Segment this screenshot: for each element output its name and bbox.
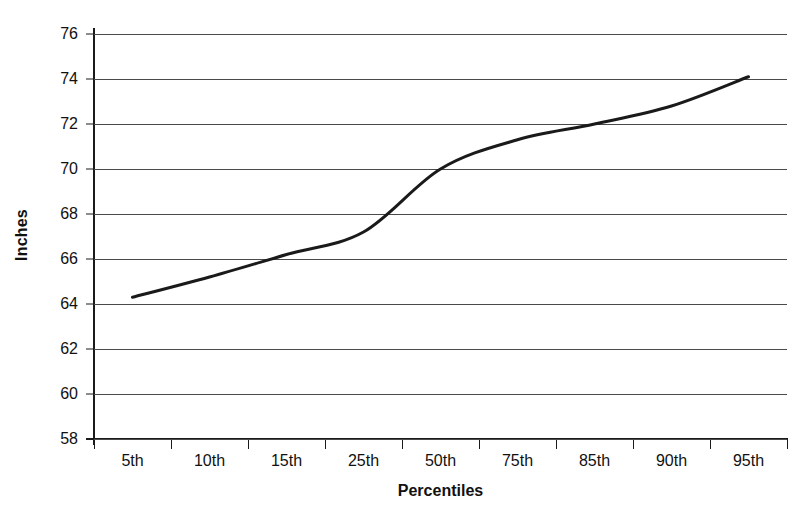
x-axis-tick-label: 75th <box>502 452 533 470</box>
y-axis-tick-mark <box>86 169 94 170</box>
x-axis-title: Percentiles <box>94 482 787 500</box>
x-axis-tick-mark <box>633 440 634 449</box>
x-axis-tick-mark <box>94 440 95 449</box>
x-axis-tick-mark <box>787 440 788 449</box>
x-axis-tick-mark <box>171 440 172 449</box>
y-axis-tick-label: 74 <box>60 70 78 88</box>
x-axis-tick-label: 5th <box>121 452 143 470</box>
y-axis-tick-mark <box>86 79 94 80</box>
gridline <box>94 439 787 440</box>
y-axis-tick-label: 58 <box>60 430 78 448</box>
y-axis-tick-mark <box>86 124 94 125</box>
x-axis-tick-label: 85th <box>579 452 610 470</box>
y-axis-tick-label: 72 <box>60 115 78 133</box>
y-axis-tick-label: 68 <box>60 205 78 223</box>
y-axis-tick-mark <box>86 304 94 305</box>
plot-area <box>94 34 787 439</box>
x-axis-tick-label: 95th <box>733 452 764 470</box>
x-axis-tick-mark <box>710 440 711 449</box>
x-axis-tick-label: 90th <box>656 452 687 470</box>
y-axis-title-text: Inches <box>13 209 31 261</box>
y-axis-tick-mark <box>86 349 94 350</box>
y-axis-tick-mark <box>86 34 94 35</box>
y-axis-tick-label: 64 <box>60 295 78 313</box>
y-axis-tick-mark <box>86 259 94 260</box>
y-axis-tick-label: 66 <box>60 250 78 268</box>
series-line-height <box>133 77 749 298</box>
y-axis-tick-label: 62 <box>60 340 78 358</box>
series-line-layer <box>94 34 787 439</box>
x-axis-tick-mark <box>325 440 326 449</box>
y-axis-tick-labels: 58606264666870727476 <box>44 0 86 470</box>
x-axis-tick-label: 15th <box>271 452 302 470</box>
x-axis-tick-labels: 5th10th15th25th50th75th85th90th95th <box>94 452 787 478</box>
chart-figure: Inches 58606264666870727476 5th10th15th2… <box>0 0 811 530</box>
y-axis-tick-mark <box>86 394 94 395</box>
y-axis-tick-label: 76 <box>60 25 78 43</box>
y-axis-title: Inches <box>0 0 44 470</box>
x-axis-tick-label: 10th <box>194 452 225 470</box>
x-axis-tick-label: 50th <box>425 452 456 470</box>
y-axis-tick-label: 60 <box>60 385 78 403</box>
y-axis-tick-label: 70 <box>60 160 78 178</box>
y-axis-tick-mark <box>86 214 94 215</box>
x-axis-tick-mark <box>556 440 557 449</box>
x-axis-tick-label: 25th <box>348 452 379 470</box>
x-axis-tick-mark <box>402 440 403 449</box>
y-axis-tick-mark <box>86 439 94 440</box>
x-axis-tick-mark <box>479 440 480 449</box>
x-axis-tick-mark <box>248 440 249 449</box>
